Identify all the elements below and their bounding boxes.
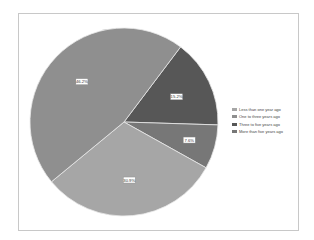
data-label-text: 7.6%: [184, 138, 194, 143]
legend: Less than one year ago One to three year…: [232, 106, 283, 135]
legend-swatch: [232, 115, 237, 118]
data-label: 7.6%: [183, 137, 195, 143]
legend-label: Three to five years ago: [239, 121, 280, 128]
legend-item: More than five years ago: [232, 128, 283, 135]
data-label-text: 15.2%: [171, 94, 183, 99]
legend-label: Less than one year ago: [239, 106, 281, 113]
legend-label: One to three years ago: [239, 113, 280, 120]
data-label-text: 46.2%: [76, 79, 88, 84]
legend-swatch: [232, 130, 237, 133]
legend-item: One to three years ago: [232, 113, 283, 120]
data-label: 30.9%: [123, 177, 135, 183]
legend-swatch: [232, 123, 237, 126]
legend-label: More than five years ago: [239, 128, 283, 135]
legend-swatch: [232, 108, 237, 111]
data-label: 15.2%: [171, 94, 183, 100]
data-label: 46.2%: [76, 79, 88, 85]
legend-item: Three to five years ago: [232, 121, 283, 128]
data-label-text: 30.9%: [123, 178, 135, 183]
legend-item: Less than one year ago: [232, 106, 283, 113]
